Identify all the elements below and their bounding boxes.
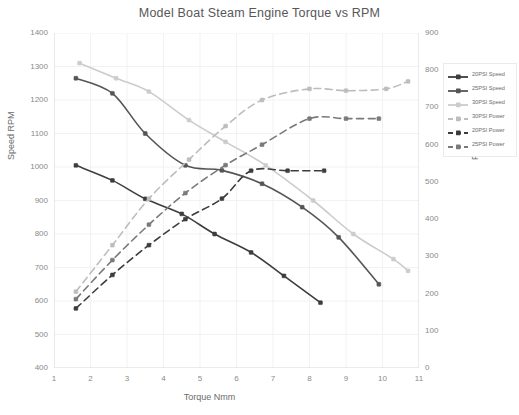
y-axis-right-tick: 400 <box>425 214 453 223</box>
legend-item-label: 20PSI Speed <box>472 72 505 78</box>
legend-item-label: 30PSI Power <box>472 114 505 120</box>
y-axis-left-tick: 500 <box>20 330 48 339</box>
plot-svg <box>54 33 419 368</box>
gridlines <box>54 33 419 368</box>
x-axis-tick: 6 <box>225 374 249 383</box>
x-axis-tick: 11 <box>407 374 431 383</box>
y-axis-left-tick: 800 <box>20 229 48 238</box>
y-axis-left-tick: 600 <box>20 296 48 305</box>
legend-line-icon <box>447 125 469 137</box>
legend-item-label: 20PSI Power <box>472 128 505 134</box>
x-axis-tick: 1 <box>42 374 66 383</box>
series-25psi-power <box>74 117 381 301</box>
x-axis-tick: 8 <box>298 374 322 383</box>
legend-item-25psi-power[interactable]: 25PSI Power <box>447 138 512 152</box>
legend-item-20psi-speed[interactable]: 20PSI Speed <box>447 68 512 82</box>
legend-item-label: 30PSI Speed <box>472 100 505 106</box>
x-axis-title: Torque Nmm <box>0 392 419 402</box>
legend-line-icon <box>447 97 469 109</box>
chart-legend: 20PSI Speed25PSI Speed30PSI Speed30PSI P… <box>443 63 517 157</box>
legend-line-icon <box>447 83 469 95</box>
legend-item-30psi-power[interactable]: 30PSI Power <box>447 110 512 124</box>
y-axis-right-tick: 900 <box>425 28 453 37</box>
legend-item-25psi-speed[interactable]: 25PSI Speed <box>447 82 512 96</box>
y-axis-right-tick: 500 <box>425 177 453 186</box>
chart-container: Model Boat Steam Engine Torque vs RPM Sp… <box>0 0 519 415</box>
legend-line-icon <box>447 139 469 151</box>
legend-line-icon <box>447 69 469 81</box>
y-axis-right-tick: 200 <box>425 289 453 298</box>
legend-line-icon <box>447 111 469 123</box>
legend-item-label: 25PSI Speed <box>472 86 505 92</box>
y-axis-left-tick: 1400 <box>20 28 48 37</box>
y-axis-left-tick: 1000 <box>20 162 48 171</box>
legend-item-20psi-power[interactable]: 20PSI Power <box>447 124 512 138</box>
x-axis-tick: 5 <box>188 374 212 383</box>
x-axis-tick: 2 <box>79 374 103 383</box>
y-axis-right-tick: 100 <box>425 326 453 335</box>
x-axis-tick: 10 <box>371 374 395 383</box>
legend-item-30psi-speed[interactable]: 30PSI Speed <box>447 96 512 110</box>
x-axis-tick: 7 <box>261 374 285 383</box>
y-axis-left-tick: 700 <box>20 263 48 272</box>
x-axis-tick: 3 <box>115 374 139 383</box>
y-axis-left-tick: 1300 <box>20 62 48 71</box>
x-axis-tick: 4 <box>152 374 176 383</box>
legend-item-label: 25PSI Power <box>472 142 505 148</box>
y-axis-right-tick: 0 <box>425 363 453 372</box>
chart-title: Model Boat Steam Engine Torque vs RPM <box>0 6 519 20</box>
y-axis-right-tick: 300 <box>425 251 453 260</box>
y-axis-left-tick: 900 <box>20 196 48 205</box>
y-axis-left-tick: 1200 <box>20 95 48 104</box>
y-axis-left-tick: 1100 <box>20 129 48 138</box>
y-axis-left-title: Speed RPM <box>6 111 16 160</box>
series-25psi-speed <box>74 76 381 286</box>
y-axis-left-tick: 400 <box>20 363 48 372</box>
plot-area <box>54 33 419 368</box>
x-axis-tick: 9 <box>334 374 358 383</box>
